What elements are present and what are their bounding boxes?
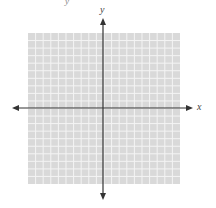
arrow-down-icon — [100, 193, 106, 200]
coordinate-plane — [0, 0, 216, 208]
x-axis-label: x — [197, 101, 201, 112]
arrow-left-icon — [12, 105, 19, 111]
arrow-right-icon — [186, 105, 193, 111]
y-axis-label: y — [100, 4, 104, 15]
arrow-up-icon — [100, 18, 106, 25]
